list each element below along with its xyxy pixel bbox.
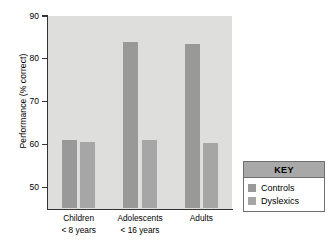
bar-dyslexics-0 <box>80 142 95 209</box>
legend-swatch-controls-icon <box>248 184 256 192</box>
y-tick-mark <box>42 15 48 16</box>
x-group-label: Adults <box>156 213 246 225</box>
bar-controls-2 <box>185 44 200 209</box>
bar-dyslexics-1 <box>142 140 157 208</box>
bar-chart: Performance (% correct) 9080706050 Child… <box>0 0 333 249</box>
legend-row: Controls <box>248 181 324 194</box>
legend-label: Dyslexics <box>261 196 299 206</box>
legend-title: KEY <box>244 162 324 178</box>
x-group-label-line2: < 16 years <box>95 225 185 237</box>
legend-items: ControlsDyslexics <box>244 178 324 211</box>
y-tick-mark <box>42 187 48 188</box>
y-tick-label: 60 <box>9 140 39 149</box>
legend-swatch-dyslexics-icon <box>248 197 256 205</box>
x-axis-line <box>47 209 233 210</box>
legend-label: Controls <box>261 183 295 193</box>
y-tick-label: 90 <box>9 12 39 21</box>
bar-controls-1 <box>123 42 138 209</box>
y-tick-mark <box>42 58 48 59</box>
x-group-label-line1: Adults <box>156 213 246 225</box>
y-axis-line <box>47 15 48 210</box>
bar-controls-0 <box>62 140 77 208</box>
legend-row: Dyslexics <box>248 194 324 207</box>
y-tick-mark <box>42 101 48 102</box>
y-tick-label: 70 <box>9 97 39 106</box>
y-tick-label: 80 <box>9 54 39 63</box>
bar-dyslexics-2 <box>203 143 218 208</box>
y-tick-mark <box>42 144 48 145</box>
legend: KEY ControlsDyslexics <box>243 161 325 212</box>
y-tick-label: 50 <box>9 183 39 192</box>
